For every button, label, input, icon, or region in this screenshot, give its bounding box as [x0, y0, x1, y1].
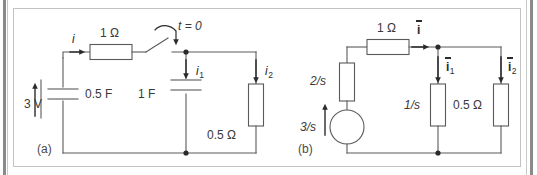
impedance-0p5ohm-label: 0.5 Ω: [453, 99, 482, 111]
node-dot: [435, 150, 440, 155]
node-dot: [183, 49, 188, 54]
circuit-figure: 3 V 1 Ω 0.5 F 1 F 0.5 Ω t = 0 i i1 i2 (a…: [0, 0, 537, 175]
current-i2-bar-label: i2: [508, 61, 517, 76]
capacitor-1f-label: 1 F: [138, 88, 155, 100]
circuit-drawing: [0, 0, 537, 175]
source-3-over-s-label: 3/s: [300, 121, 316, 133]
panel-b-wiring: [330, 40, 509, 154]
impedance-1ohm-label: 1 Ω: [377, 22, 396, 34]
resistor-1ohm-label: 1 Ω: [100, 27, 119, 39]
panel-b-caption: (b): [298, 143, 313, 155]
current-i-label: i: [72, 33, 75, 48]
source-3v-label: 3 V: [24, 98, 42, 110]
impedance-1-over-s-label: 1/s: [404, 99, 420, 111]
capacitor-0p5f-label: 0.5 F: [85, 88, 112, 100]
current-i1-bar-label: i1: [446, 61, 455, 76]
current-i1-label: i1: [196, 65, 204, 80]
impedance-2-over-s-label: 2/s: [310, 75, 326, 87]
current-i2-label: i2: [265, 65, 273, 80]
resistor-0p5ohm-label: 0.5 Ω: [207, 129, 236, 141]
panel-a-caption: (a): [37, 143, 52, 155]
node-dot: [183, 150, 188, 155]
current-i-bar-label: i: [417, 24, 421, 39]
node-dot: [435, 44, 440, 49]
switch-t0-label: t = 0: [178, 20, 202, 32]
